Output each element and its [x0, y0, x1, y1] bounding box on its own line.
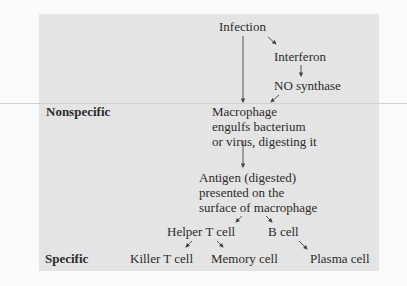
row-label-nonspecific: Nonspecific — [46, 104, 110, 119]
node-helper-t-cell: Helper T cell — [167, 224, 235, 239]
node-macrophage-line1: Macrophage — [212, 104, 277, 119]
node-infection: Infection — [219, 19, 266, 34]
arrow-nosynthase-macrophage — [271, 95, 279, 102]
arrow-helper-memory — [217, 241, 223, 247]
node-macrophage-line2: engulfs bacterium — [212, 119, 306, 134]
node-macrophage-line3: or virus, digesting it — [212, 134, 317, 149]
node-b-cell: B cell — [268, 224, 299, 239]
node-killer-t-cell: Killer T cell — [130, 251, 193, 266]
node-no-synthase: NO synthase — [274, 78, 341, 93]
node-interferon: Interferon — [274, 49, 326, 64]
node-antigen-line2: presented on the — [199, 185, 284, 200]
arrows-layer — [0, 0, 407, 286]
node-antigen-line3: surface of macrophage — [199, 200, 317, 215]
arrow-helper-killer — [186, 241, 192, 247]
row-label-specific: Specific — [45, 251, 88, 266]
node-plasma-cell: Plasma cell — [310, 251, 370, 266]
node-memory-cell: Memory cell — [211, 251, 278, 266]
arrow-antigen-bcell — [266, 216, 272, 222]
arrow-bcell-plasma — [299, 241, 307, 249]
arrow-infection-interferon — [268, 37, 276, 44]
node-antigen-line1: Antigen (digested) — [199, 170, 296, 185]
arrow-antigen-helper — [236, 216, 242, 222]
